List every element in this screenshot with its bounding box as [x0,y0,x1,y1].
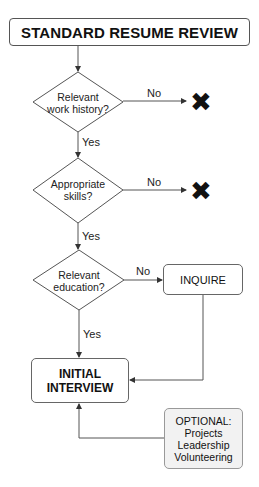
title-text: STANDARD RESUME REVIEW [21,24,238,41]
title-box: STANDARD RESUME REVIEW [9,18,250,46]
optional-item: Leadership [178,439,230,451]
decision-2-label: Appropriate skills? [33,177,123,203]
edge-inquire-to-interview [130,295,203,380]
decision-3-line1: Relevant [58,269,99,281]
decision-2-line1: Appropriate [51,178,105,190]
decision-3-label: Relevant education? [34,268,124,294]
optional-item: Volunteering [174,451,232,463]
edge-label-yes-1: Yes [82,136,100,148]
interview-line2: INTERVIEW [47,381,113,395]
edge-label-no-2: No [147,176,161,188]
edge-label-no-3: No [136,265,150,277]
decision-1-line1: Relevant [57,91,98,103]
interview-line1: INITIAL [59,367,101,381]
optional-heading: OPTIONAL: [175,415,231,427]
edge-label-no-1: No [147,87,161,99]
reject-x-icon: ✖ [190,181,212,201]
inquire-box: INQUIRE [163,264,243,295]
edge-label-yes-3: Yes [83,328,101,340]
edge-label-yes-2: Yes [82,230,100,242]
inquire-text: INQUIRE [180,274,226,286]
decision-3-line2: education? [53,281,104,293]
initial-interview-box: INITIAL INTERVIEW [31,358,129,403]
edge-optional-to-interview [79,404,164,438]
decision-2-line2: skills? [64,190,93,202]
optional-item: Projects [185,427,223,439]
reject-x-icon: ✖ [190,92,212,112]
decision-1-line2: work history? [47,103,109,115]
flowchart-canvas: STANDARD RESUME REVIEW Relevant work his… [0,0,259,487]
optional-box: OPTIONAL: Projects Leadership Volunteeri… [164,408,243,469]
decision-1-label: Relevant work history? [33,90,123,116]
